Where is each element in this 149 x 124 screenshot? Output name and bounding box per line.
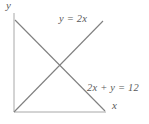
graph-figure: y x y = 2x 2x + y = 12 <box>0 0 149 124</box>
y-axis-label: y <box>6 0 11 11</box>
x-axis-label: x <box>112 100 117 111</box>
line-y-equals-2x <box>14 21 103 112</box>
line-label-2x-plus-y-equals-12: 2x + y = 12 <box>87 83 139 94</box>
line-label-y-equals-2x: y = 2x <box>59 14 87 25</box>
